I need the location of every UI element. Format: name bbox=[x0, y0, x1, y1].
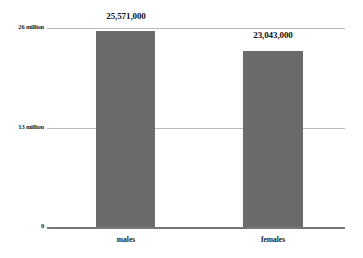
x-category-label-females: females bbox=[233, 235, 313, 244]
bar-value-label-females: 23,043,000 bbox=[233, 30, 313, 40]
y-tick-13-million: 13 million bbox=[4, 123, 44, 133]
plot-area: 26 million 13 million 0 25,571,000 23,04… bbox=[0, 0, 363, 258]
bar-females bbox=[243, 51, 303, 227]
y-tick-zero: 0 bbox=[4, 222, 44, 232]
y-tick-26-million: 26 million bbox=[4, 23, 44, 33]
bar-chart: 26 million 13 million 0 25,571,000 23,04… bbox=[0, 0, 363, 258]
y-tick-label-zero: 0 bbox=[41, 222, 44, 229]
bar-males bbox=[96, 31, 155, 227]
bar-value-label-males: 25,571,000 bbox=[86, 11, 166, 21]
x-category-label-males: males bbox=[86, 235, 166, 244]
y-tick-label-26-million: 26 million bbox=[18, 23, 44, 30]
y-tick-label-13-million: 13 million bbox=[18, 123, 44, 130]
x-axis-baseline bbox=[47, 227, 345, 229]
gridline-26-million bbox=[47, 28, 345, 29]
